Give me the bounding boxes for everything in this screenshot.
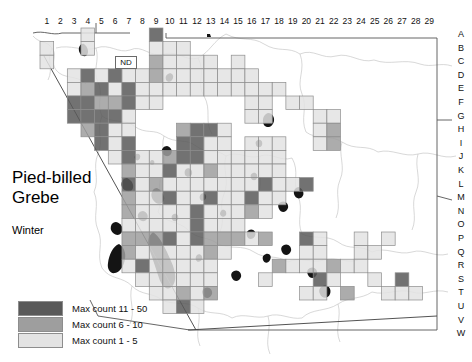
page-title: Pied-billed Grebe <box>12 168 142 208</box>
grid-cell <box>245 96 259 110</box>
grid-cell <box>190 273 204 287</box>
row-header-N: N <box>455 206 467 216</box>
row-header-H: H <box>455 124 467 134</box>
grid-cell <box>272 259 286 273</box>
grid-cell <box>313 232 327 246</box>
grid-cell <box>163 246 177 260</box>
grid-cell <box>204 205 218 219</box>
grid-cell <box>313 246 327 260</box>
grid-cell <box>218 218 232 232</box>
grid-cell <box>136 273 150 287</box>
grid-cell <box>354 232 368 246</box>
grid-cell <box>95 96 109 110</box>
grid-cell <box>300 246 314 260</box>
grid-cell <box>204 191 218 205</box>
row-header-J: J <box>455 151 467 161</box>
grid-cell <box>300 178 314 192</box>
grid-cell <box>218 205 232 219</box>
grid-cell <box>95 69 109 83</box>
distribution-map-figure: 1234567891011121314151617181920212223242… <box>0 0 472 362</box>
grid-cell <box>395 286 409 300</box>
grid-cell <box>95 110 109 124</box>
row-header-G: G <box>455 111 467 121</box>
grid-cell <box>67 110 81 124</box>
grid-cell <box>395 273 409 287</box>
grid-cell <box>272 137 286 151</box>
grid-cell <box>204 273 218 287</box>
grid-cell <box>382 286 396 300</box>
grid-cell <box>231 232 245 246</box>
grid-cell <box>231 150 245 164</box>
grid-cell <box>122 110 136 124</box>
grid-cell <box>190 191 204 205</box>
grid-cell <box>272 164 286 178</box>
grid-cell <box>81 82 95 96</box>
grid-cell <box>231 69 245 83</box>
grid-cell <box>177 286 191 300</box>
grid-cell <box>177 150 191 164</box>
grid-cell <box>163 232 177 246</box>
legend-swatch <box>18 333 63 348</box>
grid-cell <box>149 232 163 246</box>
grid-cell <box>163 191 177 205</box>
row-header-E: E <box>455 83 467 93</box>
grid-cell <box>300 232 314 246</box>
grid-cell <box>204 218 218 232</box>
grid-cell <box>231 82 245 96</box>
grid-cell <box>204 137 218 151</box>
grid-cell <box>259 96 273 110</box>
grid-cell <box>409 286 423 300</box>
grid-cell <box>218 191 232 205</box>
grid-cell <box>286 178 300 192</box>
grid-cell <box>177 178 191 192</box>
legend-item: Max count 11 - 50 <box>18 300 183 316</box>
legend-label: Max count 1 - 5 <box>72 335 137 346</box>
legend-item: Max count 6 - 10 <box>18 316 183 332</box>
grid-cell <box>204 178 218 192</box>
legend-swatch <box>18 301 63 316</box>
grid-cell <box>368 273 382 287</box>
grid-cell <box>313 137 327 151</box>
row-header-W: W <box>455 328 467 338</box>
legend: Max count 11 - 50Max count 6 - 10Max cou… <box>18 300 183 348</box>
grid-cell <box>149 273 163 287</box>
grid-cell <box>149 42 163 56</box>
grid-cell <box>245 82 259 96</box>
grid-cell <box>177 42 191 56</box>
grid-cell <box>149 164 163 178</box>
grid-cell <box>218 82 232 96</box>
grid-cell <box>368 246 382 260</box>
grid-cell <box>313 273 327 287</box>
grid-cell <box>190 82 204 96</box>
grid-cell <box>163 286 177 300</box>
row-header-D: D <box>455 70 467 80</box>
grid-cell <box>259 232 273 246</box>
grid-cell <box>204 259 218 273</box>
grid-cell <box>286 96 300 110</box>
grid-cell <box>81 110 95 124</box>
row-header-A: A <box>455 29 467 39</box>
grid-cell <box>122 123 136 137</box>
row-header-I: I <box>455 138 467 148</box>
grid-cell <box>259 82 273 96</box>
grid-cell <box>163 178 177 192</box>
grid-cell <box>136 246 150 260</box>
grid-cell <box>81 69 95 83</box>
grid-cell <box>177 123 191 137</box>
grid-cell <box>177 191 191 205</box>
grid-cell <box>204 82 218 96</box>
grid-cell <box>327 273 341 287</box>
grid-cell <box>177 273 191 287</box>
grid-cell <box>149 82 163 96</box>
grid-cell <box>300 286 314 300</box>
grid-cell <box>204 123 218 137</box>
grid-cell <box>177 232 191 246</box>
legend-label: Max count 11 - 50 <box>72 303 147 314</box>
grid-cell <box>259 137 273 151</box>
grid-cell <box>300 259 314 273</box>
grid-cell <box>218 178 232 192</box>
grid-cell <box>95 82 109 96</box>
grid-cell <box>272 178 286 192</box>
grid-cell <box>313 286 327 300</box>
grid-cell <box>163 273 177 287</box>
